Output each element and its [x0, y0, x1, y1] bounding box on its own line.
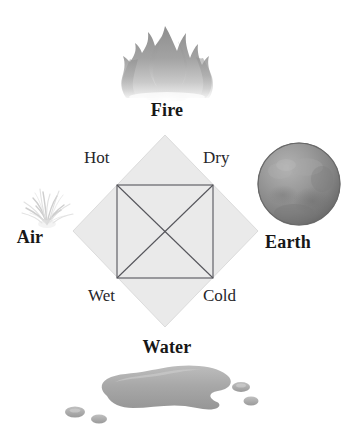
droplet-left-bottom: [91, 415, 107, 424]
quality-label-dry: Dry: [203, 149, 229, 166]
element-label-earth: Earth: [265, 233, 311, 251]
element-label-fire: Fire: [151, 101, 183, 119]
quality-label-wet: Wet: [88, 287, 115, 304]
diagram-canvas: Fire Earth: [0, 0, 350, 429]
quality-label-hot: Hot: [84, 149, 110, 166]
element-label-air: Air: [17, 228, 44, 246]
element-label-water: Water: [143, 338, 192, 356]
quality-label-cold: Cold: [203, 287, 236, 304]
flame-icon: [118, 23, 216, 101]
puddle-icon: [55, 358, 300, 424]
droplet-right-lower: [244, 397, 259, 406]
